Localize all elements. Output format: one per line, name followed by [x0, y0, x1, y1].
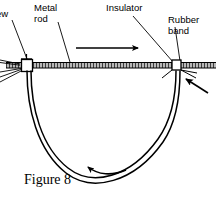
metal-rod — [6, 63, 216, 69]
figure-caption: Figure 8 — [24, 172, 71, 187]
leader-line-screw — [12, 20, 27, 59]
screw-clamp-block — [22, 60, 33, 72]
label-rubber-band-line2: band — [168, 25, 199, 36]
leader-line-insulator — [133, 16, 173, 62]
band-pull-arrow — [186, 79, 208, 93]
label-insulator: Insulator — [106, 2, 142, 13]
metal-rod-body — [6, 63, 216, 69]
rubber-band-loop — [27, 71, 180, 183]
label-rubber-band-line1: Rubber — [168, 14, 199, 25]
rubber-band-inner-strand — [31, 71, 176, 178]
label-rubber-band: Rubber band — [168, 14, 199, 36]
label-metal-rod-line1: Metal — [34, 2, 57, 13]
rubber-band-outer-strand — [27, 71, 180, 183]
loop-direction-arrow — [88, 167, 126, 174]
label-metal-rod: Metal rod — [34, 2, 57, 24]
leader-line-metal-rod — [58, 22, 70, 62]
figure-8-diagram: ew Metal rod Insulator Rubber band Figur… — [0, 0, 222, 199]
insulator-block — [172, 60, 181, 70]
label-screw: ew — [0, 8, 8, 19]
label-metal-rod-line2: rod — [34, 13, 57, 24]
